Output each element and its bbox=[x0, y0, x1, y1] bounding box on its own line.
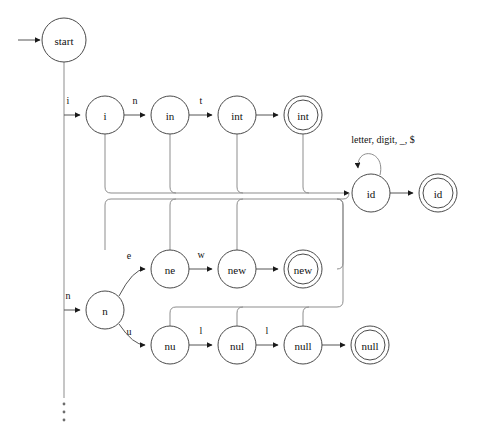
edge-id-self-loop: letter, digit, _, $ bbox=[351, 134, 414, 175]
state-n[interactable]: n bbox=[86, 291, 124, 329]
state-in-label: in bbox=[166, 110, 175, 122]
edge-n-to-nu: u bbox=[119, 324, 145, 345]
edge-label-ne-to-new: w bbox=[197, 249, 205, 260]
edge-label-id-self-loop: letter, digit, _, $ bbox=[351, 134, 414, 145]
edge-in-to-int: t bbox=[189, 95, 212, 115]
edge-id-self-loop-path bbox=[358, 154, 381, 175]
edge-label-start-to-n: n bbox=[66, 290, 71, 301]
edge-i-to-in: n bbox=[124, 95, 145, 115]
route-nul-to-id bbox=[237, 307, 243, 326]
state-start[interactable]: start bbox=[42, 18, 86, 62]
edge-label-start-to-i: i bbox=[67, 95, 70, 106]
route-new-accept-to-id bbox=[337, 199, 343, 269]
vertical-ellipsis bbox=[63, 403, 66, 422]
route-bus-lower-main bbox=[105, 193, 349, 250]
state-new[interactable]: new bbox=[218, 250, 256, 288]
state-int-label: int bbox=[231, 110, 243, 122]
route-int-accept-to-id bbox=[303, 134, 309, 193]
state-id[interactable]: id bbox=[352, 174, 390, 212]
state-i-label: i bbox=[103, 110, 106, 122]
edge-start-to-n: n bbox=[64, 290, 80, 310]
route-new-to-id bbox=[237, 199, 243, 250]
route-ne-to-id bbox=[170, 199, 176, 250]
state-start-label: start bbox=[55, 35, 74, 47]
route-in-to-id bbox=[170, 134, 176, 193]
edge-n-to-nu-path bbox=[119, 324, 145, 345]
state-nul[interactable]: nul bbox=[218, 326, 256, 364]
state-nu[interactable]: nu bbox=[151, 326, 189, 364]
state-n-label: n bbox=[102, 305, 108, 317]
ellipsis-dot-2 bbox=[63, 411, 66, 414]
state-id-accept[interactable]: id bbox=[419, 174, 457, 212]
edge-nul-to-null: l bbox=[256, 325, 278, 345]
state-null-accept[interactable]: null bbox=[351, 326, 389, 364]
route-null-to-id bbox=[303, 307, 309, 326]
state-new-accept[interactable]: new bbox=[284, 250, 322, 288]
edge-n-to-ne: e bbox=[119, 250, 145, 296]
state-nul-label: nul bbox=[230, 340, 244, 352]
state-ne[interactable]: ne bbox=[151, 250, 189, 288]
edge-label-nu-to-nul: l bbox=[200, 325, 203, 336]
states-layer: startiinintintididnenewnewnnunulnullnull bbox=[42, 18, 457, 364]
edge-label-nul-to-null: l bbox=[266, 325, 269, 336]
state-null-accept-label: null bbox=[361, 340, 378, 352]
state-int-accept-label: int bbox=[297, 110, 309, 122]
state-new-accept-label: new bbox=[294, 264, 312, 276]
route-int-to-id bbox=[237, 134, 243, 193]
edge-n-to-ne-path bbox=[119, 269, 145, 296]
route-i-to-id bbox=[105, 134, 349, 193]
state-id-label: id bbox=[367, 188, 376, 200]
state-in[interactable]: in bbox=[151, 96, 189, 134]
transition-diagram: i n t bbox=[0, 0, 479, 439]
state-int[interactable]: int bbox=[218, 96, 256, 134]
ellipsis-dot-3 bbox=[63, 419, 66, 422]
state-i[interactable]: i bbox=[86, 96, 124, 134]
automaton-canvas: i n t bbox=[0, 0, 479, 439]
state-new-label: new bbox=[228, 264, 246, 276]
edge-label-i-to-in: n bbox=[133, 95, 138, 106]
state-int-accept[interactable]: int bbox=[284, 96, 322, 134]
state-null[interactable]: null bbox=[284, 326, 322, 364]
state-nu-label: nu bbox=[165, 340, 177, 352]
edge-nu-to-nul: l bbox=[189, 325, 212, 345]
routing-row1-to-id bbox=[105, 134, 349, 193]
edge-ne-to-new: w bbox=[189, 249, 212, 269]
state-id-accept-label: id bbox=[434, 188, 443, 200]
edge-label-n-to-ne: e bbox=[127, 250, 132, 261]
state-ne-label: ne bbox=[165, 264, 176, 276]
edge-label-in-to-int: t bbox=[200, 95, 203, 106]
edge-start-to-i: i bbox=[64, 95, 80, 115]
ellipsis-dot-1 bbox=[63, 403, 66, 406]
state-null-label: null bbox=[294, 340, 311, 352]
edge-label-n-to-nu: u bbox=[127, 326, 132, 337]
